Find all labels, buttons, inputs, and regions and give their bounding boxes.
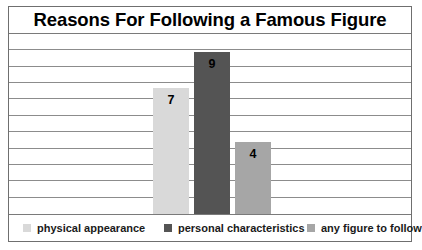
- chart-container: Reasons For Following a Famous Figure 79…: [8, 6, 412, 242]
- legend-item-label: physical appearance: [37, 222, 145, 234]
- legend-swatch-icon: [164, 224, 172, 232]
- plot-area: 794: [9, 34, 411, 214]
- legend-item-label: personal characteristics: [178, 222, 305, 234]
- legend-swatch-icon: [307, 224, 315, 232]
- page-title: Reasons For Following a Famous Figure: [34, 9, 387, 31]
- bar-value-label: 7: [153, 93, 189, 107]
- legend-item[interactable]: personal characteristics: [164, 222, 305, 234]
- chart-title-band: Reasons For Following a Famous Figure: [9, 7, 411, 34]
- legend-item[interactable]: physical appearance: [23, 222, 145, 234]
- bar: 7: [153, 88, 189, 214]
- legend-swatch-icon: [23, 224, 31, 232]
- legend-item-label: any figure to follow: [321, 222, 422, 234]
- legend-item[interactable]: any figure to follow: [307, 222, 422, 234]
- bar: 9: [194, 52, 230, 214]
- bar: 4: [235, 142, 271, 214]
- bar-value-label: 9: [194, 57, 230, 71]
- chart-legend: physical appearancepersonal characterist…: [9, 214, 411, 241]
- bar-value-label: 4: [235, 147, 271, 161]
- bar-series: 794: [9, 34, 411, 214]
